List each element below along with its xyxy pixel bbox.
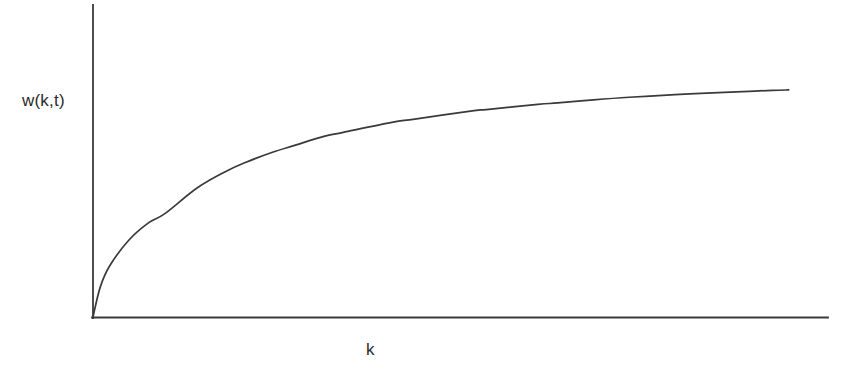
data-series-curve [93,90,789,317]
y-axis-label: w(k,t) [22,92,65,109]
x-axis-label: k [366,341,375,358]
chart-plot-area [0,0,845,378]
chart-figure: w(k,t) k [0,0,845,378]
